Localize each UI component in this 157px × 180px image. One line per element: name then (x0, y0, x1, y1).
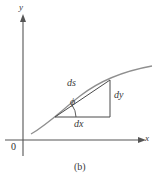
origin-label: 0 (11, 142, 16, 152)
label-dx: dx (74, 119, 83, 129)
label-phi-angle: ϕ (70, 97, 75, 107)
figure-caption: (b) (74, 162, 86, 172)
function-curve (31, 66, 152, 134)
figure-container: y x 0 ds dy dx ϕ (b) (0, 0, 157, 180)
label-dy: dy (114, 90, 123, 100)
figure-graphic (0, 0, 157, 180)
x-axis-label: x (145, 134, 149, 143)
y-axis-label: y (19, 3, 23, 12)
triangle-hypotenuse-ds (55, 80, 110, 117)
y-axis-arrowhead (20, 14, 26, 22)
label-ds: ds (67, 78, 76, 88)
